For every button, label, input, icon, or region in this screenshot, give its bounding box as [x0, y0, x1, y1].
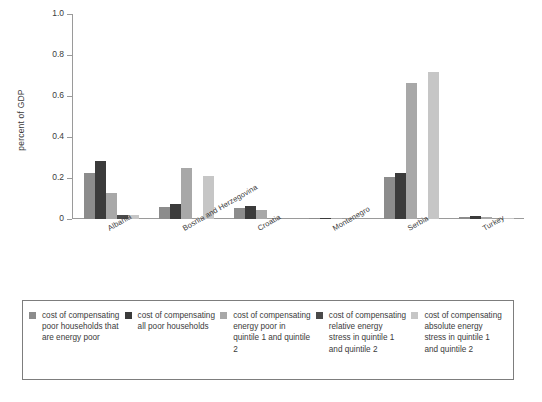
bar-group: [384, 14, 439, 219]
legend-swatch-icon: [125, 312, 132, 319]
bar: [309, 218, 320, 219]
plot-area: 00.20.40.60.81.0: [72, 14, 522, 219]
y-tick-label: 0: [59, 213, 64, 223]
y-tick-label: 0.2: [52, 172, 64, 182]
bar: [406, 83, 417, 219]
y-tick-mark: [67, 137, 72, 138]
bar: [159, 207, 170, 219]
bar: [256, 210, 267, 219]
legend-item[interactable]: cost of compensating all poor households: [125, 310, 221, 379]
bar-group: [159, 14, 214, 219]
legend-label: cost of compensating poor households tha…: [42, 310, 120, 344]
y-tick-label: 0.8: [52, 49, 64, 59]
y-tick-label: 0.4: [52, 131, 64, 141]
bar: [320, 218, 331, 219]
bar: [459, 217, 470, 219]
bar-group: [459, 14, 514, 219]
legend-item[interactable]: cost of compensating poor households tha…: [29, 310, 125, 379]
y-axis-title-text: percent of GDP: [16, 60, 26, 180]
bar: [470, 216, 481, 219]
bar-chart: percent of GDP 00.20.40.60.81.0 AlbaniaB…: [0, 0, 542, 300]
legend-label: cost of compensating absolute energy str…: [424, 310, 502, 355]
y-tick-mark: [67, 55, 72, 56]
legend-swatch-icon: [411, 312, 418, 319]
y-tick-mark: [67, 96, 72, 97]
bar: [84, 173, 95, 219]
legend-item[interactable]: cost of compensating relative energy str…: [316, 310, 412, 379]
y-tick-mark: [67, 219, 72, 220]
y-tick-mark: [67, 178, 72, 179]
bar: [95, 161, 106, 219]
legend-label: cost of compensating all poor households: [138, 310, 216, 332]
bar: [234, 208, 245, 219]
y-tick-label: 0.6: [52, 90, 64, 100]
legend-label: cost of compensating energy poor in quin…: [233, 310, 311, 355]
bar: [181, 168, 192, 219]
y-tick-mark: [67, 14, 72, 15]
bar: [245, 206, 256, 219]
legend-item[interactable]: cost of compensating energy poor in quin…: [220, 310, 316, 379]
bar: [106, 193, 117, 219]
y-axis-title: percent of GDP: [16, 0, 26, 60]
bar-group: [84, 14, 139, 219]
bar: [170, 204, 181, 219]
legend-swatch-icon: [316, 312, 323, 319]
bar: [384, 177, 395, 219]
bar: [395, 173, 406, 219]
x-axis-line: [72, 218, 524, 219]
bar: [428, 72, 439, 219]
chart-legend: cost of compensating poor households tha…: [22, 300, 514, 380]
y-tick-label: 1.0: [52, 8, 64, 18]
y-axis-line: [72, 14, 73, 219]
legend-item[interactable]: cost of compensating absolute energy str…: [411, 310, 507, 379]
bar-group: [309, 14, 364, 219]
legend-swatch-icon: [29, 312, 36, 319]
legend-swatch-icon: [220, 312, 227, 319]
legend-label: cost of compensating relative energy str…: [329, 310, 407, 355]
